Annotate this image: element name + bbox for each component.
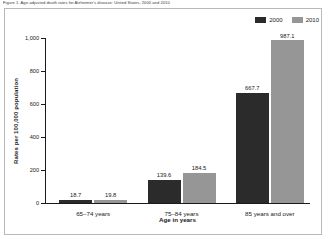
bar-2010-1: 184.5 <box>183 173 216 203</box>
bar-2000-2: 667.7 <box>236 93 269 203</box>
plot-area: 02004006008001,000 18.719.8139.6184.5667… <box>45 38 310 204</box>
y-axis-line <box>45 38 46 204</box>
y-axis-tick-label: 600 <box>30 101 39 107</box>
y-axis-tick <box>41 104 45 105</box>
y-axis-tick-label: 200 <box>30 167 39 173</box>
bar-2010-2: 987.1 <box>271 40 304 203</box>
bar-2010-0: 19.8 <box>94 200 127 203</box>
x-axis-line <box>45 203 310 204</box>
y-axis-tick <box>41 71 45 72</box>
y-axis-tick-label: 400 <box>30 134 39 140</box>
bar-value-label: 184.5 <box>192 165 207 171</box>
legend-swatch-2000 <box>255 17 266 23</box>
y-axis-tick <box>41 203 45 204</box>
chart-legend: 2000 2010 <box>255 17 319 23</box>
bar-value-label: 18.7 <box>70 192 81 198</box>
bar-value-label: 667.7 <box>245 85 260 91</box>
bar-2000-1: 139.6 <box>148 180 181 203</box>
y-axis-tick <box>41 137 45 138</box>
y-axis-title: Rates per 100,000 population <box>11 38 21 204</box>
y-axis-tick-label: 0 <box>36 200 39 206</box>
x-axis-title: Age in years <box>45 216 310 223</box>
legend-entry-2010: 2010 <box>292 17 319 23</box>
bar-value-label: 987.1 <box>280 33 295 39</box>
bar-2000-0: 18.7 <box>59 200 92 203</box>
bar-value-label: 19.8 <box>105 192 116 198</box>
bar-group: 139.6184.5 <box>148 38 216 203</box>
legend-label-2000: 2000 <box>269 17 282 23</box>
y-axis-tick <box>41 170 45 171</box>
legend-label-2010: 2010 <box>306 17 319 23</box>
bar-group: 667.7987.1 <box>236 38 304 203</box>
legend-swatch-2010 <box>292 17 303 23</box>
bar-group: 18.719.8 <box>59 38 127 203</box>
bar-value-label: 139.6 <box>157 172 172 178</box>
legend-entry-2000: 2000 <box>255 17 282 23</box>
y-axis-tick-label: 800 <box>30 68 39 74</box>
y-axis-title-text: Rates per 100,000 population <box>13 78 19 164</box>
y-axis-tick-label: 1,000 <box>25 35 39 41</box>
figure-title: Figure 1. Age-adjusted death rates for A… <box>3 0 325 6</box>
y-axis-tick <box>41 38 45 39</box>
